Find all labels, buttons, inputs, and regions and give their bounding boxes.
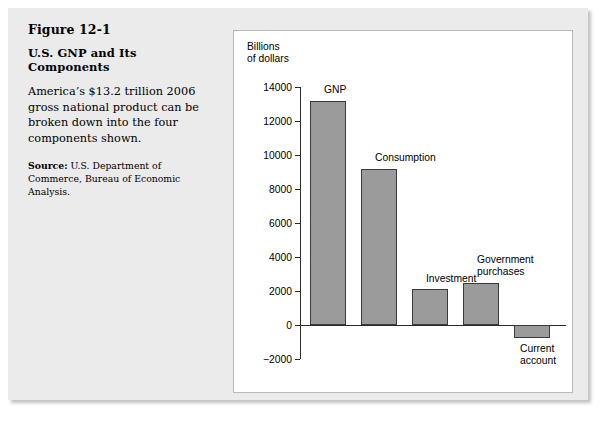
figure-panel: Figure 12-1 U.S. GNP and Its Components … bbox=[8, 8, 588, 400]
source-label: Source: bbox=[28, 160, 68, 171]
bar-consumption bbox=[361, 169, 397, 325]
y-tick-mark bbox=[295, 87, 300, 88]
y-tick-label: 12000 bbox=[246, 116, 292, 127]
y-tick-label: 6000 bbox=[246, 218, 292, 229]
y-tick-mark bbox=[295, 223, 300, 224]
caption-column: Figure 12-1 U.S. GNP and Its Components … bbox=[28, 22, 210, 198]
figure-title: U.S. GNP and Its Components bbox=[28, 46, 210, 74]
y-tick-mark bbox=[295, 121, 300, 122]
y-tick-mark bbox=[295, 155, 300, 156]
y-tick-label: 4000 bbox=[246, 252, 292, 263]
figure-description: America’s $13.2 trillion 2006 gross nati… bbox=[28, 84, 210, 146]
y-tick-mark bbox=[295, 359, 300, 360]
bar-investment bbox=[412, 289, 448, 325]
plot-area: 14000120001000080006000400020000−2000GNP… bbox=[234, 31, 572, 392]
y-tick-mark bbox=[295, 189, 300, 190]
chart-box: Billions of dollars 14000120001000080006… bbox=[233, 30, 573, 393]
y-tick-label: −2000 bbox=[246, 354, 292, 365]
y-tick-label: 10000 bbox=[246, 150, 292, 161]
bar-government-purchases bbox=[463, 283, 499, 326]
y-tick-label: 0 bbox=[246, 320, 292, 331]
figure-number: Figure 12-1 bbox=[28, 22, 210, 37]
y-tick-mark bbox=[295, 257, 300, 258]
y-axis-line bbox=[300, 87, 301, 359]
y-tick-mark bbox=[295, 291, 300, 292]
bar-label-gnp: GNP bbox=[324, 84, 346, 96]
bar-label-consumption: Consumption bbox=[375, 152, 436, 164]
bar-label-government-purchases: Government purchases bbox=[477, 254, 534, 278]
bar-current-account bbox=[514, 325, 550, 338]
bar-label-current-account: Current account bbox=[520, 343, 556, 367]
figure-source: Source: U.S. Department of Commerce, Bur… bbox=[28, 160, 210, 198]
bar-gnp bbox=[310, 101, 346, 325]
y-tick-label: 8000 bbox=[246, 184, 292, 195]
y-tick-label: 2000 bbox=[246, 286, 292, 297]
y-tick-label: 14000 bbox=[246, 82, 292, 93]
